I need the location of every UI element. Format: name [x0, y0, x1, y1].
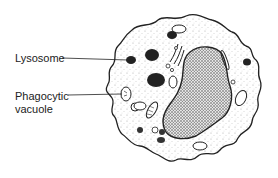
phagocytic-vacuole-label-line1: Phagocytic [15, 90, 69, 103]
mitochondrion [169, 76, 177, 88]
lysosome [145, 49, 159, 61]
lysosome-label: Lysosome [15, 52, 65, 65]
lysosome [243, 59, 251, 66]
phagocytic-vacuole [172, 25, 186, 33]
phagocytic-vacuole [134, 102, 146, 110]
phagocytic-vacuole [193, 142, 207, 150]
lysosome [159, 129, 165, 135]
lysosome-label-text: Lysosome [15, 52, 65, 64]
cell-illustration [0, 0, 278, 178]
phagocytic-vacuole-label-line2: vacuole [15, 103, 69, 116]
phagocytic-vacuole [121, 87, 131, 101]
lysosome [147, 73, 165, 87]
lysosome [157, 137, 165, 143]
phagocytic-vacuole-label: Phagocytic vacuole [15, 90, 69, 116]
lysosome [137, 127, 143, 133]
